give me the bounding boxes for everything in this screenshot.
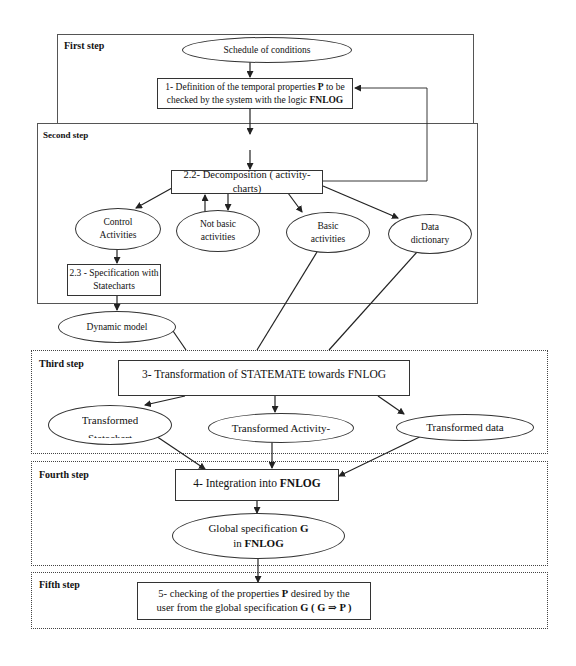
integration-text: 4- Integration into — [193, 477, 280, 489]
transformed-data-label: Transformed data — [426, 420, 504, 435]
checking-text-3: user from the global specification — [157, 602, 301, 613]
second-step-label: Second step — [43, 130, 88, 140]
transformation-node: 3- Transformation of STATEMATE towards F… — [118, 360, 410, 396]
dynamic-model-node: Dynamic model — [58, 311, 176, 343]
dynamic-model-label: Dynamic model — [87, 321, 148, 334]
decomposition-label: 2.2- Decomposition ( activity-charts) — [172, 168, 322, 196]
decomposition-node: 2.2- Decomposition ( activity-charts) — [171, 170, 323, 194]
transformed-statechart-label-1: Transformed — [82, 414, 138, 426]
schedule-of-conditions-label: Schedule of conditions — [223, 44, 310, 57]
not-basic-label-1: Not basic — [200, 219, 236, 229]
control-label-2: Activities — [100, 230, 137, 240]
checking-node: 5- checking of the properties P desired … — [137, 582, 371, 620]
not-basic-activities-node: Not basicactivities — [176, 210, 260, 252]
definition-text: 1- Definition of the temporal properties — [165, 82, 317, 92]
global-specification-node: Global specification Gin FNLOG — [172, 513, 345, 559]
integration-node: 4- Integration into FNLOG — [175, 469, 339, 501]
control-label-1: Control — [103, 217, 132, 227]
global-spec-text-2: in — [233, 537, 244, 549]
control-activities-node: ControlActivities — [75, 208, 161, 250]
data-dictionary-node: Datadictionary — [388, 214, 472, 254]
definition-node: 1- Definition of the temporal properties… — [157, 78, 353, 109]
not-basic-label-2: activities — [201, 232, 235, 242]
transformed-data-node: Transformed data — [396, 414, 534, 441]
global-spec-text: Global specification — [208, 522, 300, 534]
basic-activities-node: Basicactivities — [286, 212, 370, 253]
transformed-statechart-node: TransformedStatechart — [48, 405, 172, 445]
basic-label-1: Basic — [317, 221, 338, 231]
transformed-statechart-label-2: Statechart — [88, 432, 132, 438]
global-spec-fnlog: FNLOG — [245, 537, 284, 549]
checking-formula: G ( G ⇒ P ) — [300, 602, 351, 613]
checking-text: 5- checking of the properties — [158, 588, 281, 599]
schedule-of-conditions-node: Schedule of conditions — [182, 37, 352, 63]
definition-text-2: to be — [324, 82, 345, 92]
first-step-label: First step — [64, 40, 104, 51]
spec-label-1: 2.3 - Specification with — [69, 268, 158, 278]
transformation-label: 3- Transformation of STATEMATE towards F… — [142, 367, 386, 383]
global-spec-g: G — [300, 522, 309, 534]
definition-text-3: checked by the system with the logic — [167, 95, 310, 105]
third-step-label: Third step — [39, 358, 84, 369]
fourth-step-label: Fourth step — [39, 469, 89, 480]
transformed-activity-label: Transformed Activity- — [232, 421, 330, 436]
basic-label-2: activities — [311, 234, 345, 244]
data-dict-label-1: Data — [421, 222, 439, 232]
data-dict-label-2: dictionary — [411, 235, 450, 245]
integration-fnlog: FNLOG — [280, 477, 321, 489]
checking-text-2: desired by the — [288, 588, 350, 599]
spec-label-2: Statecharts — [93, 281, 135, 291]
fifth-step-label: Fifth step — [39, 579, 80, 590]
transformed-activity-node: Transformed Activity- — [208, 413, 354, 443]
definition-fnlog: FNLOG — [309, 95, 343, 105]
spec-statecharts-node: 2.3 - Specification withStatecharts — [67, 264, 161, 296]
